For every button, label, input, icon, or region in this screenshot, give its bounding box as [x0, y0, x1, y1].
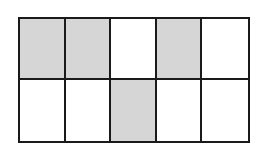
shaded-cell-r1-c1: [20, 19, 66, 80]
shaded-cell-r1-c4: [157, 19, 203, 80]
fraction-grid: [18, 17, 250, 143]
unshaded-cell-r2-c5: [202, 80, 248, 141]
shaded-cell-r1-c2: [66, 19, 112, 80]
unshaded-cell-r2-c4: [157, 80, 203, 141]
unshaded-cell-r2-c1: [20, 80, 66, 141]
unshaded-cell-r2-c2: [66, 80, 112, 141]
shaded-cell-r2-c3: [111, 80, 157, 141]
unshaded-cell-r1-c3: [111, 19, 157, 80]
unshaded-cell-r1-c5: [202, 19, 248, 80]
